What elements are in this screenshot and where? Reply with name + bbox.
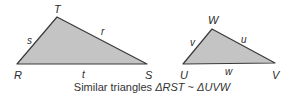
side-label-u: u: [241, 34, 247, 45]
caption-triangle-rst: ΔRST: [155, 81, 184, 93]
triangle-rst: [17, 17, 147, 64]
side-label-t: t: [82, 69, 86, 80]
caption-triangle-uvw: ΔUVW: [197, 81, 230, 93]
side-label-v: v: [190, 37, 196, 48]
side-label-w: w: [225, 66, 233, 77]
side-label-r: r: [101, 26, 105, 37]
side-label-s: s: [27, 35, 32, 46]
caption-similarity-symbol: ~: [185, 81, 198, 93]
vertex-label-r: R: [14, 69, 22, 81]
triangle-uvw: [183, 29, 275, 64]
vertex-label-v: V: [272, 69, 281, 81]
similar-triangles-figure: T R S s r t W U V v u w Similar triangle…: [0, 0, 298, 102]
vertex-label-u: U: [180, 69, 188, 81]
vertex-label-t: T: [54, 3, 62, 15]
vertex-label-w: W: [208, 14, 220, 26]
figure-caption: Similar triangles ΔRST ~ ΔUVW: [0, 81, 298, 93]
vertex-label-s: S: [145, 69, 153, 81]
caption-prefix: Similar triangles: [74, 81, 155, 93]
